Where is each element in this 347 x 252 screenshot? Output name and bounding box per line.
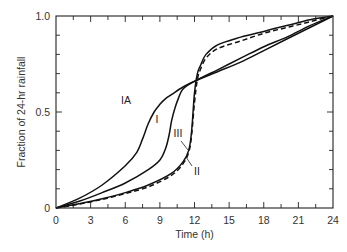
curve-label-iii: III xyxy=(174,127,183,139)
x-tick-label: 24 xyxy=(327,214,339,226)
y-tick-label: 0.5 xyxy=(35,106,50,118)
x-axis-title: Time (h) xyxy=(175,228,214,240)
x-tick-label: 6 xyxy=(122,214,128,226)
x-tick-label: 3 xyxy=(88,214,94,226)
x-tick-label: 9 xyxy=(157,214,163,226)
curve-ia xyxy=(56,16,333,208)
rainfall-distribution-chart: 1.0 0.5 0 0 3 6 9 12 15 18 21 24 Time (h… xyxy=(0,0,347,252)
x-tick-label: 18 xyxy=(258,214,270,226)
leader-line-iii xyxy=(181,141,188,150)
y-tick-label: 1.0 xyxy=(35,10,50,22)
curve-label-i: I xyxy=(156,113,159,125)
curve-label-ia: IA xyxy=(121,94,131,106)
leader-line-ii xyxy=(186,157,192,166)
y-tick-label: 0 xyxy=(44,202,50,214)
x-tick-label: 12 xyxy=(189,214,201,226)
x-tick-label: 15 xyxy=(223,214,235,226)
plot-frame xyxy=(56,16,333,208)
y-axis-title: Fraction of 24-hr rainfall xyxy=(15,57,27,168)
curve-label-ii: II xyxy=(194,165,200,177)
axis-ticks xyxy=(56,16,333,208)
curve-iii xyxy=(56,16,333,208)
curves xyxy=(56,16,333,208)
curve-i xyxy=(56,16,333,208)
x-tick-label: 0 xyxy=(53,214,59,226)
x-tick-label: 21 xyxy=(293,214,305,226)
curve-ii xyxy=(56,16,333,208)
